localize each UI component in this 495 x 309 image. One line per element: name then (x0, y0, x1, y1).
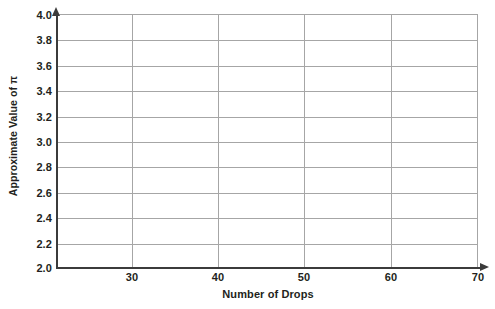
gridline-vertical (218, 15, 219, 268)
y-axis-tick-label: 3.2 (22, 112, 52, 123)
gridline-horizontal (58, 244, 477, 245)
y-axis-tick-label: 2.4 (22, 213, 52, 224)
x-axis-arrow-icon (480, 263, 489, 271)
y-axis-tick-label: 3.6 (22, 61, 52, 72)
y-axis-tick-label: 3.4 (22, 86, 52, 97)
gridline-horizontal (58, 218, 477, 219)
x-axis-tick-label: 70 (458, 272, 495, 283)
x-axis-tick-label: 50 (284, 272, 324, 283)
x-axis-tick-label: 40 (198, 272, 238, 283)
y-axis-tick-label: 2.0 (22, 263, 52, 274)
x-axis-tick-label: 60 (371, 272, 411, 283)
gridline-horizontal (58, 66, 477, 67)
y-axis-title: Approximate Value of π (7, 61, 19, 211)
plot-area (58, 14, 478, 268)
y-axis-tick-labels: 4.0 3.8 3.6 3.4 3.2 3.0 2.8 2.6 2.4 2.2 … (16, 0, 52, 309)
clipped-text-sliver (0, 0, 495, 4)
y-axis-arrow-icon (52, 7, 60, 16)
gridline-vertical (391, 15, 392, 268)
y-axis-tick-label: 2.8 (22, 162, 52, 173)
x-axis-title: Number of Drops (58, 288, 478, 300)
gridline-horizontal (58, 193, 477, 194)
gridline-horizontal (58, 167, 477, 168)
x-axis-tick-label: 30 (112, 272, 152, 283)
gridline-horizontal (58, 40, 477, 41)
gridline-horizontal (58, 117, 477, 118)
gridline-horizontal (58, 91, 477, 92)
y-axis-line (56, 14, 58, 269)
y-axis-tick-label: 2.2 (22, 239, 52, 250)
x-axis-line (56, 267, 484, 269)
y-axis-tick-label: 2.6 (22, 188, 52, 199)
gridline-vertical (132, 15, 133, 268)
y-axis-tick-label: 3.8 (22, 35, 52, 46)
gridline-vertical (304, 15, 305, 268)
y-axis-tick-label: 4.0 (22, 10, 52, 21)
y-axis-tick-label: 3.0 (22, 137, 52, 148)
gridline-horizontal (58, 142, 477, 143)
chart-figure: 4.0 3.8 3.6 3.4 3.2 3.0 2.8 2.6 2.4 2.2 … (0, 0, 495, 309)
